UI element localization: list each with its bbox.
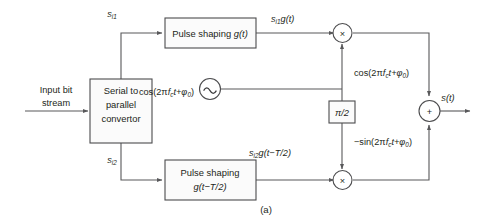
pulse-shaping-q-line1: Pulse shaping — [181, 167, 240, 178]
serial-to-parallel-line3: convertor — [101, 113, 140, 124]
label-shaped-i: si1g(t) — [271, 14, 294, 25]
quadrature-suffix: ) — [409, 137, 412, 147]
figure-caption: (a) — [260, 204, 272, 215]
phase-shift-label: π/2 — [335, 107, 350, 118]
block-pulse-shaping-q[interactable] — [165, 160, 256, 200]
pulse-shaping-i-math: g(t) — [234, 28, 248, 39]
summer-glyph: + — [427, 107, 432, 117]
multiplier-quadrature-glyph: × — [340, 176, 345, 186]
serial-to-parallel-line2: parallel — [106, 99, 136, 110]
carrier-oscillator[interactable] — [200, 79, 221, 100]
label-signal-q-branch: si2 — [107, 155, 117, 166]
label-quadrature-carrier: −sin(2πfct+φ0) — [354, 137, 412, 148]
multiplier-inphase-glyph: × — [340, 29, 345, 39]
quadrature-prefix: −sin(2π — [354, 137, 386, 147]
inphase-mid: t+φ — [389, 68, 403, 78]
serial-to-parallel-line1: Serial to — [104, 85, 138, 96]
input-stream-line1: Input bit — [40, 85, 73, 95]
label-signal-i-branch: si1 — [107, 9, 117, 20]
inphase-prefix: cos(2π — [354, 68, 383, 78]
oqpsk-modulator-diagram: Serial to parallel convertor Pulse shapi… — [0, 0, 479, 222]
pulse-shaping-q-math: g(t−T/2) — [193, 181, 226, 192]
label-shaped-q-rest: g(t−T/2) — [259, 148, 291, 158]
wire-q-mixer-to-summer — [353, 125, 429, 180]
label-signal-q-sub: i2 — [112, 159, 117, 166]
wire-i-branch — [121, 33, 162, 79]
label-oscillator-carrier: cos(2πfct+φ0) — [139, 87, 194, 98]
pulse-shaping-i-text: Pulse shaping — [172, 28, 234, 39]
label-output-st: s(t) — [441, 93, 454, 103]
oscillator-mid: t+φ — [173, 87, 187, 97]
input-stream-line2: stream — [42, 98, 70, 108]
label-signal-i-sub: i1 — [112, 13, 117, 20]
label-shaped-q: si2g(t−T/2) — [249, 148, 291, 159]
wire-i-mixer-to-summer — [353, 33, 429, 96]
figure-root: Serial to parallel convertor Pulse shapi… — [0, 0, 479, 222]
quadrature-mid: t+φ — [391, 137, 405, 147]
inphase-suffix: ) — [406, 68, 409, 78]
pulse-shaping-i-label: Pulse shaping g(t) — [172, 28, 248, 39]
label-shaped-i-rest: g(t) — [281, 14, 295, 24]
oscillator-suffix: ) — [191, 87, 194, 97]
label-inphase-carrier: cos(2πfct+φ0) — [354, 68, 409, 79]
oscillator-prefix: cos(2π — [139, 87, 168, 97]
wire-q-branch — [121, 143, 162, 180]
